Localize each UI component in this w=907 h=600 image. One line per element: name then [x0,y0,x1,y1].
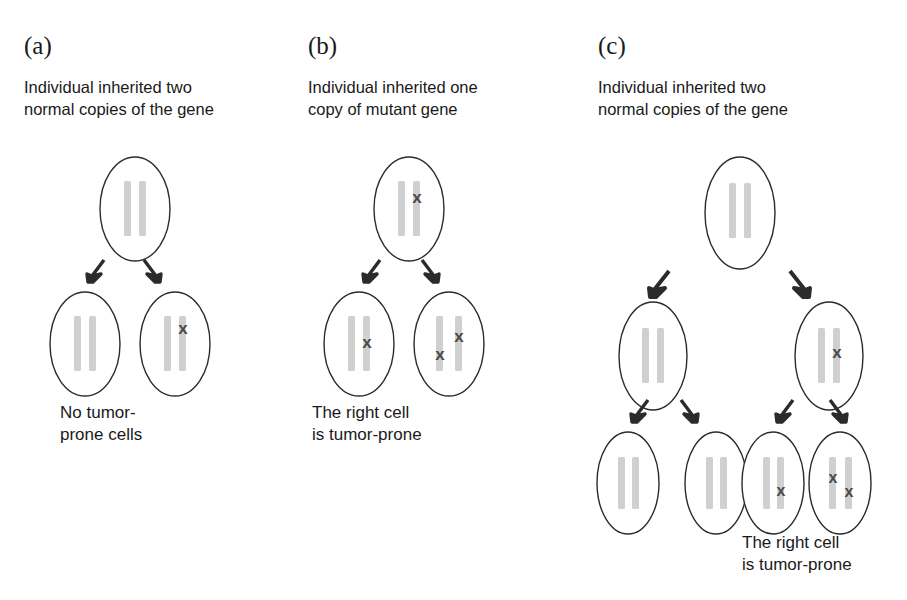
chromosome-right-icon [89,316,96,371]
panel-b-caption-top: Individual inherited one copy of mutant … [308,77,478,121]
chromosome-left-icon [818,328,825,383]
panel-b-arrow-left [358,258,384,286]
chromosome-left-icon [124,181,131,236]
cell-membrane-icon [619,302,687,410]
arrow-down-left-icon [776,400,793,422]
mutation-x-icon: x [845,483,854,500]
chromosome-left-icon [706,457,713,509]
panel-c-arrow-gen2-left [642,268,674,302]
panel-a-arrow-right [140,258,166,286]
panel-b: (b) Individual inherited one copy of mut… [290,0,580,600]
panel-b-parent-cell: x [362,155,456,263]
panel-a-caption-bottom: No tumor- prone cells [60,402,142,446]
panel-a-daughter-cell-right: x [128,290,222,398]
cell-membrane-icon [140,292,210,396]
chromosome-right-icon [657,328,664,383]
chromosome-left-icon [398,181,405,236]
panel-c-daughter-cell-right: x [782,300,876,412]
chromosome-left-icon [763,457,770,509]
panel-a-daughter-cell-left [38,290,132,398]
mutation-x-icon: x [435,345,445,364]
panel-c-label: (c) [598,33,626,58]
chromosome-left-icon [642,328,649,383]
chromosome-left-icon [74,316,81,371]
panel-c-parent-cell [693,155,787,271]
arrow-down-right-icon [681,400,698,422]
arrow-down-left-icon [649,271,669,297]
cell-membrane-icon [324,292,394,396]
panel-a: (a) Individual inherited two normal copi… [0,0,290,600]
arrow-down-right-icon [144,260,161,282]
chromosome-left-icon [618,457,625,509]
panel-c-arrow-gen3-1 [626,398,652,426]
cell-membrane-icon [795,302,863,410]
panel-c-caption-bottom: The right cell is tumor-prone [742,532,852,576]
cell-membrane-icon [809,432,871,534]
arrow-down-left-icon [363,260,380,282]
arrow-down-right-icon [830,400,847,422]
chromosome-right-icon [139,181,146,236]
arrow-down-right-icon [790,271,810,297]
cell-membrane-icon [705,157,775,269]
mutation-x-icon: x [777,482,786,499]
mutation-x-icon: x [362,333,372,352]
cell-membrane-icon [100,157,170,261]
panel-c-granddaughter-cell-1 [586,430,670,536]
mutation-x-icon: x [829,469,838,486]
mutation-x-icon: x [178,319,188,338]
cell-membrane-icon [414,292,484,396]
panel-c: (c) Individual inherited two normal copi… [580,0,907,600]
panel-a-label: (a) [24,33,52,58]
arrow-down-right-icon [422,260,439,282]
chromosome-left-icon [348,316,355,371]
panel-b-caption-bottom: The right cell is tumor-prone [312,402,422,446]
mutation-x-icon: x [412,188,422,207]
chromosome-right-icon [632,457,639,509]
cell-membrane-icon [597,432,659,534]
panel-b-daughter-cell-left: x [312,290,406,398]
chromosome-left-icon [729,183,736,238]
chromosome-right-icon [744,183,751,238]
panel-c-daughter-cell-left [606,300,700,412]
panel-c-arrow-gen2-right [785,268,817,302]
cell-membrane-icon [742,432,804,534]
mutation-x-icon: x [832,343,842,362]
panel-a-parent-cell [88,155,182,263]
panel-b-arrow-right [418,258,444,286]
cell-membrane-icon [374,157,444,261]
chromosome-right-icon [720,457,727,509]
panel-c-arrow-gen3-3 [771,398,797,426]
panel-a-arrow-left [82,258,108,286]
panel-c-granddaughter-cell-4: x x [798,430,882,536]
panel-a-caption-top: Individual inherited two normal copies o… [24,77,214,121]
arrow-down-left-icon [87,260,104,282]
panel-c-arrow-gen3-4 [826,398,852,426]
panel-c-caption-top: Individual inherited two normal copies o… [598,77,788,121]
panel-b-label: (b) [308,33,337,58]
arrow-down-left-icon [631,400,648,422]
figure-two-hit-model: (a) Individual inherited two normal copi… [0,0,907,600]
cell-membrane-icon [50,292,120,396]
mutation-x-icon: x [454,327,464,346]
panel-b-daughter-cell-right: x x [402,290,496,398]
panel-c-arrow-gen3-2 [677,398,703,426]
chromosome-left-icon [164,316,171,371]
